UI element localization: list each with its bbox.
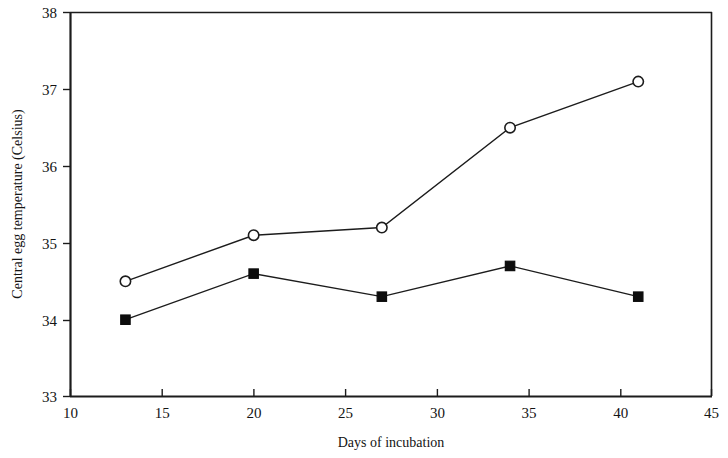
x-tick-label: 30 bbox=[430, 405, 445, 421]
x-tick-label: 20 bbox=[246, 405, 261, 421]
x-tick-label: 25 bbox=[338, 405, 353, 421]
y-axis-title: Central egg temperature (Celsius) bbox=[10, 109, 26, 299]
y-tick-labels: 38 37 36 35 34 33 bbox=[42, 5, 58, 405]
plot-frame bbox=[70, 12, 712, 397]
y-tick-label: 33 bbox=[42, 389, 57, 405]
data-point-open-circle bbox=[248, 230, 258, 240]
data-point-filled-square bbox=[505, 261, 514, 270]
x-tickmarks bbox=[71, 389, 712, 396]
data-point-filled-square bbox=[634, 292, 643, 301]
x-tick-label: 10 bbox=[63, 405, 78, 421]
x-tick-label: 40 bbox=[613, 405, 628, 421]
y-tick-label: 37 bbox=[42, 82, 58, 98]
series-line bbox=[125, 82, 638, 282]
series-open-circle-series bbox=[120, 76, 643, 286]
chart-figure: 38 37 36 35 34 33 10 15 20 25 30 35 40 4… bbox=[0, 0, 728, 458]
data-point-open-circle bbox=[377, 222, 387, 232]
data-point-filled-square bbox=[121, 315, 130, 324]
y-tick-label: 36 bbox=[42, 159, 58, 175]
data-point-filled-square bbox=[377, 292, 386, 301]
data-point-open-circle bbox=[120, 276, 130, 286]
x-axis-title: Days of incubation bbox=[338, 435, 445, 450]
y-tick-label: 38 bbox=[42, 5, 57, 21]
x-tick-label: 15 bbox=[155, 405, 170, 421]
x-tick-label: 45 bbox=[704, 405, 719, 421]
line-chart: 38 37 36 35 34 33 10 15 20 25 30 35 40 4… bbox=[0, 0, 728, 458]
x-tick-labels: 10 15 20 25 30 35 40 45 bbox=[63, 405, 719, 421]
y-tickmarks bbox=[63, 13, 70, 397]
data-point-filled-square bbox=[249, 269, 258, 278]
data-point-open-circle bbox=[505, 123, 515, 133]
series-layer bbox=[120, 76, 643, 324]
x-tick-label: 35 bbox=[522, 405, 537, 421]
data-point-open-circle bbox=[633, 76, 643, 86]
y-tick-label: 35 bbox=[42, 236, 57, 252]
y-tick-label: 34 bbox=[42, 313, 58, 329]
series-filled-square-series bbox=[121, 261, 643, 324]
